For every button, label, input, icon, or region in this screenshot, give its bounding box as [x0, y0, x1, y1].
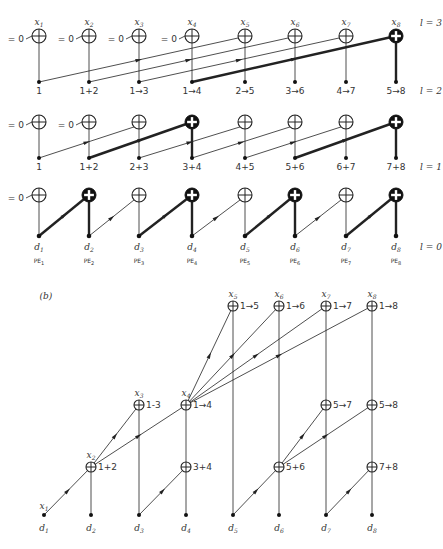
input-label-x5: x5 — [241, 17, 250, 28]
data-label-d8: d8 — [391, 242, 401, 253]
adder-node-l2-4 — [185, 115, 199, 129]
data-label-d4: d4 — [181, 523, 191, 534]
input-label-x7: x7 — [322, 289, 331, 300]
partial-sum-label: 4→7 — [337, 86, 356, 96]
data-label-d6: d6 — [290, 242, 300, 253]
adder-node-x3 — [134, 400, 144, 410]
input-label-x3: x3 — [135, 388, 144, 399]
adder-node-l3-4 — [185, 29, 199, 43]
pe-label: PE5 — [240, 257, 251, 266]
data-node — [89, 513, 93, 517]
arrow-icon — [135, 59, 142, 63]
pe-label: PE7 — [341, 257, 352, 266]
result-label: 1-3 — [146, 400, 161, 410]
input-label-x1: x1 — [40, 501, 49, 512]
zero-input-label: = 0 — [58, 120, 74, 130]
adder-node-l1-5 — [238, 188, 252, 202]
diagram-a: x11x21+2x31→3x41→4x52→5x63→6x74→7x85→8= … — [8, 17, 442, 266]
data-label-d2: d2 — [86, 523, 96, 534]
result-label: 1→4 — [193, 400, 212, 410]
partial-sum-label: 2+3 — [130, 162, 149, 172]
adder-node-l1-3 — [132, 188, 146, 202]
data-node — [394, 80, 398, 84]
data-node — [394, 156, 398, 160]
partial-sum-label: 7+8 — [387, 162, 406, 172]
adder-node-l3-8 — [389, 29, 403, 43]
data-node — [293, 80, 297, 84]
input-label-x1: x1 — [35, 17, 44, 28]
diagram-b: (b)x51→5x61→6x71→7x81→8x31-3x41→45→75→8x… — [39, 289, 398, 534]
partial-sum-label: 4+5 — [236, 162, 255, 172]
adder-node-l3-6 — [288, 29, 302, 43]
adder-node-x8 — [367, 301, 377, 311]
data-node — [137, 156, 141, 160]
arrow-icon — [236, 59, 243, 63]
input-label-x4: x4 — [182, 388, 191, 399]
data-node — [137, 234, 142, 239]
pe-label: PE4 — [187, 257, 198, 266]
data-node — [277, 513, 281, 517]
result-label: 1→8 — [379, 301, 398, 311]
partial-sum-label: 1 — [36, 86, 42, 96]
adder-node-n58 — [367, 400, 377, 410]
adder-node-l2-1 — [32, 115, 46, 129]
arrow-icon — [253, 353, 259, 358]
partial-sum-label: 1→4 — [183, 86, 202, 96]
data-label-d8: d8 — [367, 523, 377, 534]
arrow-icon — [238, 141, 245, 145]
result-label: 1→6 — [286, 301, 305, 311]
partial-sum-label: 1→3 — [130, 86, 149, 96]
zero-input-edge — [179, 36, 185, 39]
zero-input-label: = 0 — [8, 120, 24, 130]
adder-node-n57 — [321, 400, 331, 410]
arrow-icon — [135, 434, 141, 439]
zero-input-label: = 0 — [8, 34, 24, 44]
result-label: 3+4 — [193, 462, 212, 472]
data-node — [137, 513, 141, 517]
pe-label: PE1 — [34, 257, 45, 266]
data-node — [37, 80, 41, 84]
data-node — [344, 156, 348, 160]
input-label-x7: x7 — [342, 17, 351, 28]
input-label-x4: x4 — [188, 17, 197, 28]
data-node — [394, 234, 399, 239]
arrow-icon — [342, 139, 349, 143]
adder-node-l2-5 — [238, 115, 252, 129]
data-label-d3: d3 — [134, 523, 144, 534]
adder-node-n56 — [274, 462, 284, 472]
data-node — [42, 513, 46, 517]
data-node — [190, 80, 194, 84]
arrow-icon — [322, 434, 328, 439]
data-node — [231, 513, 235, 517]
adder-node-l2-2 — [82, 115, 96, 129]
partial-sum-label: 3→6 — [286, 86, 305, 96]
input-label-x3: x3 — [135, 17, 144, 28]
arrow-icon — [137, 139, 144, 143]
data-node — [37, 234, 42, 239]
data-node — [243, 234, 248, 239]
data-node — [243, 156, 247, 160]
adder-node-x2 — [86, 462, 96, 472]
zero-input-edge — [26, 36, 32, 39]
result-label: 1+2 — [98, 462, 117, 472]
data-label-d2: d2 — [84, 242, 94, 253]
adder-node-x7 — [321, 301, 331, 311]
data-label-d1: d1 — [39, 523, 49, 534]
data-label-d5: d5 — [228, 523, 238, 534]
zero-input-edge — [26, 195, 32, 198]
adder-node-l2-3 — [132, 115, 146, 129]
data-node — [370, 513, 374, 517]
adder-node-l3-7 — [339, 29, 353, 43]
pe-label: PE6 — [290, 257, 301, 266]
zero-input-label: = 0 — [161, 34, 177, 44]
adder-node-l1-1 — [32, 188, 46, 202]
adder-node-l3-5 — [238, 29, 252, 43]
partial-sum-label: 1 — [36, 162, 42, 172]
data-node — [184, 513, 188, 517]
panel-label-b: (b) — [40, 291, 53, 301]
partial-sum-label: 2→5 — [236, 86, 255, 96]
adder-node-n78 — [367, 462, 377, 472]
data-label-d1: d1 — [34, 242, 44, 253]
data-node — [87, 156, 91, 160]
result-label: 5+6 — [286, 462, 305, 472]
